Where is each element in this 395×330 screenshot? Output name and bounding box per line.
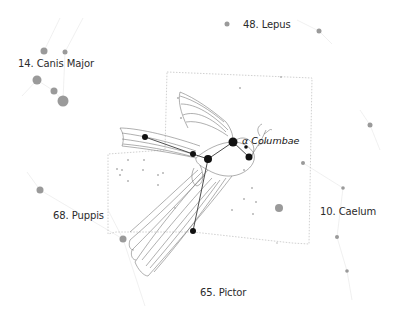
star: [190, 228, 196, 234]
label-pictor: 65. Pictor: [200, 287, 246, 298]
alpha-columbae-star: [229, 138, 238, 147]
star: [190, 151, 196, 157]
label-caelum: 10. Caelum: [320, 206, 376, 217]
faint-stars: [116, 76, 282, 244]
star: [246, 154, 253, 161]
star: [204, 155, 212, 163]
label-lepus: 48. Lepus: [243, 19, 291, 30]
star: [142, 134, 148, 140]
constellation-chart: [0, 0, 395, 330]
label-puppis: 68. Puppis: [53, 210, 104, 221]
label-canis-major: 14. Canis Major: [18, 58, 94, 69]
dove-illustration: [120, 92, 272, 276]
label-alpha-columbae: α Columbae: [242, 135, 299, 146]
